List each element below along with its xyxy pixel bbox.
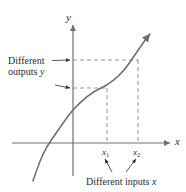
annotation-outputs-line1: Different (8, 55, 44, 66)
function-curve (33, 34, 150, 181)
annotation-different-inputs: Different inputs x (86, 176, 156, 187)
annotation-inputs-text: Different inputs (86, 176, 152, 187)
leader-arrow-outputs-upper (52, 60, 70, 61)
annotation-different-outputs: Different outputs y (8, 55, 44, 77)
tick-label-x1: x1 (102, 148, 109, 157)
x-axis-label: x (175, 136, 180, 147)
leader-arrow-input-x1 (105, 159, 112, 172)
annotation-inputs-variable: x (152, 176, 156, 187)
annotation-outputs-text: outputs (8, 66, 40, 77)
tick-x2-subscript: 2 (137, 151, 140, 158)
leader-arrow-input-x2 (126, 159, 136, 172)
tick-x1-subscript: 1 (106, 151, 109, 158)
tick-label-x2: x2 (133, 148, 140, 157)
function-graph-figure: y x x1 x2 Different outputs y Different … (0, 0, 186, 192)
annotation-outputs-variable: y (40, 66, 44, 77)
graph-canvas (0, 0, 186, 192)
y-axis-label: y (66, 12, 71, 23)
leader-arrow-outputs-lower (55, 85, 70, 88)
annotation-outputs-line2: outputs y (8, 66, 44, 77)
